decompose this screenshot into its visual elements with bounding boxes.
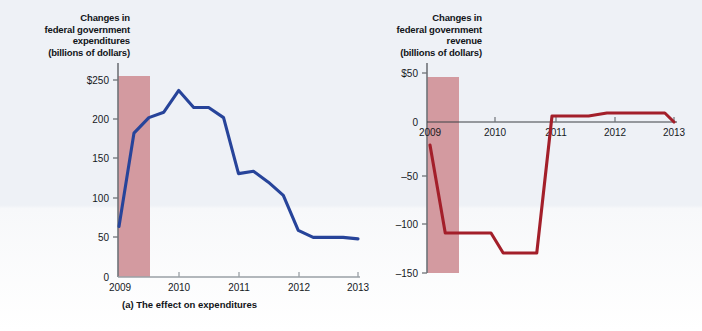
- y-tick-label-50: 50: [98, 232, 110, 243]
- x-tick-label-2012: 2012: [604, 127, 627, 138]
- y-tick-label-neg50: –50: [401, 171, 418, 182]
- recession-band: [427, 77, 459, 273]
- y-tick-label-200: 200: [92, 114, 109, 125]
- y-tick-label-neg100: –100: [396, 219, 419, 230]
- panel-a-caption: (a) The effect on expenditures: [122, 299, 257, 310]
- x-tick-label-2009: 2009: [419, 127, 442, 138]
- recession-band: [118, 76, 150, 277]
- y-tick-label-0: 0: [412, 117, 418, 128]
- revenue-chart: $50 0 –50 –100 –150 2009 2010 2011 2012 …: [352, 0, 702, 300]
- y-tick-label-150: 150: [92, 153, 109, 164]
- panel-revenue: Changes in federal government revenue (b…: [352, 0, 702, 331]
- x-tick-label-2013: 2013: [663, 127, 686, 138]
- y-tick-label-neg150: –150: [396, 268, 419, 279]
- x-tick-label-2010: 2010: [484, 127, 507, 138]
- figure-background: Changes in federal government expenditur…: [0, 0, 702, 331]
- panel-expenditures: Changes in federal government expenditur…: [0, 0, 365, 331]
- expenditures-series-line: [119, 90, 358, 238]
- y-tick-label-50: $50: [401, 68, 418, 79]
- x-tick-label-2012: 2012: [288, 282, 311, 293]
- x-tick-label-2011: 2011: [228, 282, 250, 293]
- x-tick-marks: [495, 117, 674, 122]
- x-tick-label-2009: 2009: [109, 282, 132, 293]
- x-tick-marks: [179, 272, 358, 277]
- y-tick-label-250: $250: [87, 75, 110, 86]
- x-tick-label-2010: 2010: [168, 282, 191, 293]
- expenditures-chart: $250 200 150 100 50 0 2009 2010 2011 201…: [0, 0, 365, 300]
- y-tick-label-100: 100: [92, 193, 109, 204]
